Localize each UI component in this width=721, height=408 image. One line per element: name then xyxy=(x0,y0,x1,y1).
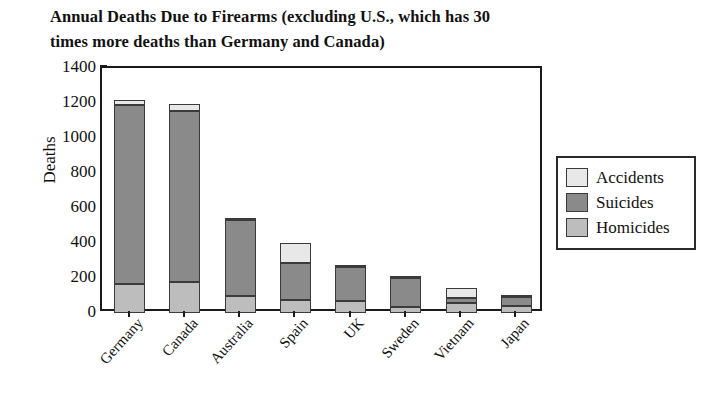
legend-swatch-homicides xyxy=(566,218,588,237)
bar-segment-accidents[interactable] xyxy=(446,288,477,299)
bar-group[interactable] xyxy=(225,68,256,313)
y-tick-label: 0 xyxy=(50,303,96,320)
x-tick-label-sweden: Sweden xyxy=(366,315,423,375)
bar-segment-suicides[interactable] xyxy=(501,297,532,306)
bar-group[interactable] xyxy=(114,68,145,313)
bar-segment-accidents[interactable] xyxy=(114,100,145,104)
bar-segment-accidents[interactable] xyxy=(335,265,366,267)
bar-segment-accidents[interactable] xyxy=(280,243,311,263)
legend-label: Suicides xyxy=(596,194,654,211)
x-tick-label-germany: Germany xyxy=(89,315,146,375)
bar-group[interactable] xyxy=(280,68,311,313)
y-axis-tick-labels: 1400120010008006004002000 xyxy=(44,66,96,311)
legend-item[interactable]: Accidents xyxy=(566,165,686,190)
y-tick-label: 800 xyxy=(50,163,96,180)
x-tick-label-canada: Canada xyxy=(145,315,202,375)
bar-group[interactable] xyxy=(446,68,477,313)
chart-legend: AccidentsSuicidesHomicides xyxy=(556,156,696,250)
y-tick-label: 1400 xyxy=(50,58,96,75)
x-tick-label-uk: UK xyxy=(310,315,367,375)
legend-item[interactable]: Suicides xyxy=(566,190,686,215)
y-tick-label: 400 xyxy=(50,233,96,250)
x-axis-tick-labels: GermanyCanadaAustraliaSpainUKSwedenVietn… xyxy=(100,311,560,406)
bar-segment-homicides[interactable] xyxy=(169,282,200,314)
bar-segment-accidents[interactable] xyxy=(501,295,532,297)
bar-segment-suicides[interactable] xyxy=(114,105,145,284)
y-tick-label: 1200 xyxy=(50,93,96,110)
bar-segment-suicides[interactable] xyxy=(280,263,311,300)
bar-segment-suicides[interactable] xyxy=(225,220,256,296)
x-tick-label-japan: Japan xyxy=(476,315,533,375)
bar-segment-accidents[interactable] xyxy=(390,276,421,278)
legend-item[interactable]: Homicides xyxy=(566,215,686,240)
bar-group[interactable] xyxy=(335,68,366,313)
bar-segment-accidents[interactable] xyxy=(169,104,200,111)
bar-segment-homicides[interactable] xyxy=(114,284,145,313)
bar-segment-suicides[interactable] xyxy=(446,298,477,302)
y-tick-label: 600 xyxy=(50,198,96,215)
bar-segment-suicides[interactable] xyxy=(390,278,421,307)
y-tick-label: 200 xyxy=(50,268,96,285)
bar-group[interactable] xyxy=(169,68,200,313)
bar-segment-suicides[interactable] xyxy=(169,111,200,282)
legend-label: Homicides xyxy=(596,219,670,236)
legend-swatch-accidents xyxy=(566,168,588,187)
bar-group[interactable] xyxy=(390,68,421,313)
bars-layer xyxy=(102,68,544,313)
plot-area xyxy=(100,66,542,311)
legend-label: Accidents xyxy=(596,169,664,186)
legend-swatch-suicides xyxy=(566,193,588,212)
chart-title: Annual Deaths Due to Firearms (excluding… xyxy=(50,4,530,54)
bar-segment-accidents[interactable] xyxy=(225,218,256,220)
bar-group[interactable] xyxy=(501,68,532,313)
bar-segment-suicides[interactable] xyxy=(335,267,366,301)
y-tick-label: 1000 xyxy=(50,128,96,145)
x-tick-label-australia: Australia xyxy=(200,315,257,375)
x-tick-label-vietnam: Vietnam xyxy=(421,315,478,375)
x-tick-label-spain: Spain xyxy=(255,315,312,375)
